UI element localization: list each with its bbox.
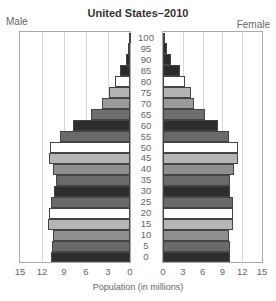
x-tick-label: 0 <box>153 266 173 277</box>
male-bar <box>49 208 130 219</box>
age-label: 45 <box>131 152 161 163</box>
chart-title: United States–2010 <box>0 7 276 19</box>
age-label: 85 <box>131 65 161 76</box>
x-tick-label: 3 <box>98 266 118 277</box>
age-label: 50 <box>131 142 161 153</box>
male-bar <box>109 87 130 98</box>
age-label: 100 <box>131 32 161 43</box>
age-label: 25 <box>131 196 161 207</box>
age-label: 5 <box>131 240 161 251</box>
gridline <box>242 32 243 262</box>
male-bar <box>56 175 130 186</box>
male-bar <box>60 131 130 142</box>
female-bar <box>163 252 230 263</box>
female-label: Female <box>237 19 270 30</box>
age-label: 35 <box>131 174 161 185</box>
female-bar <box>163 65 180 76</box>
gridline <box>42 32 43 262</box>
female-bar <box>163 164 234 175</box>
female-bar <box>163 142 238 153</box>
female-bar <box>163 76 185 87</box>
age-label: 90 <box>131 54 161 65</box>
male-bar <box>49 153 130 164</box>
female-bar <box>163 33 165 44</box>
male-bar <box>91 109 130 120</box>
female-bar <box>163 98 194 109</box>
x-tick-label: 6 <box>76 266 96 277</box>
female-bar <box>163 186 230 197</box>
age-label: 60 <box>131 120 161 131</box>
x-tick-label: 15 <box>10 266 30 277</box>
male-bar <box>53 164 130 175</box>
male-bar <box>51 252 130 263</box>
age-label: 10 <box>131 229 161 240</box>
x-tick-label: 9 <box>212 266 232 277</box>
x-tick-label: 6 <box>193 266 213 277</box>
male-bar <box>53 230 130 241</box>
female-bar <box>163 175 230 186</box>
male-bar <box>54 186 130 197</box>
female-bar <box>163 120 218 131</box>
age-label: 75 <box>131 87 161 98</box>
age-label: 80 <box>131 76 161 87</box>
age-label: 15 <box>131 218 161 229</box>
x-tick-label: 15 <box>252 266 272 277</box>
x-tick-label: 9 <box>54 266 74 277</box>
female-bar <box>163 131 229 142</box>
female-bar <box>163 197 233 208</box>
age-label: 70 <box>131 98 161 109</box>
female-bar <box>163 230 229 241</box>
male-bar <box>120 65 130 76</box>
female-bar <box>163 153 238 164</box>
male-bar <box>128 43 130 54</box>
male-bar <box>73 120 130 131</box>
female-bar <box>163 43 167 54</box>
female-bar <box>163 54 171 65</box>
x-axis-label: Population (in millions) <box>0 282 276 292</box>
male-bar <box>51 197 130 208</box>
female-bar <box>163 208 233 219</box>
x-tick-label: 0 <box>120 266 140 277</box>
age-label: 65 <box>131 109 161 120</box>
male-bar <box>126 54 130 65</box>
age-label: 95 <box>131 43 161 54</box>
male-bar <box>52 241 130 252</box>
age-label: 40 <box>131 163 161 174</box>
female-bar <box>163 241 230 252</box>
female-bar <box>163 219 233 230</box>
age-label: 20 <box>131 207 161 218</box>
female-plot <box>162 31 263 263</box>
x-tick-label: 12 <box>232 266 252 277</box>
male-bar <box>115 76 130 87</box>
x-tick-label: 12 <box>32 266 52 277</box>
age-label: 55 <box>131 131 161 142</box>
female-bar <box>163 109 205 120</box>
x-tick-label: 3 <box>173 266 193 277</box>
male-bar <box>50 142 130 153</box>
age-label: 0 <box>131 251 161 262</box>
female-bar <box>163 87 191 98</box>
male-bar <box>48 219 130 230</box>
male-label: Male <box>6 16 28 27</box>
male-bar <box>102 98 130 109</box>
age-label: 30 <box>131 185 161 196</box>
male-plot <box>19 31 131 263</box>
